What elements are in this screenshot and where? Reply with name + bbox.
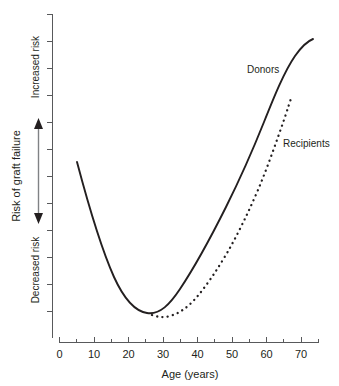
x-tick-label-50: 50 — [226, 348, 238, 360]
x-tick-label-0: 0 — [56, 348, 62, 360]
x-tick-label-30: 30 — [157, 348, 169, 360]
risk-of-graft-failure-chart: 0 10 20 30 40 50 60 70 Age (years) Risk … — [0, 0, 339, 386]
recipients-series-label: Recipients — [283, 138, 330, 149]
increased-risk-label: Increased risk — [30, 35, 41, 98]
y-axis-title: Risk of graft failure — [10, 130, 22, 222]
x-tick-label-70: 70 — [295, 348, 307, 360]
decreased-risk-label: Decreased risk — [30, 236, 41, 304]
x-tick-label-60: 60 — [260, 348, 272, 360]
x-tick-label-20: 20 — [122, 348, 134, 360]
x-tick-label-40: 40 — [191, 348, 203, 360]
donors-series-label: Donors — [247, 64, 279, 75]
x-axis-title: Age (years) — [162, 368, 219, 380]
x-tick-label-10: 10 — [88, 348, 100, 360]
chart-container: 0 10 20 30 40 50 60 70 Age (years) Risk … — [0, 0, 339, 386]
chart-background — [0, 0, 339, 386]
